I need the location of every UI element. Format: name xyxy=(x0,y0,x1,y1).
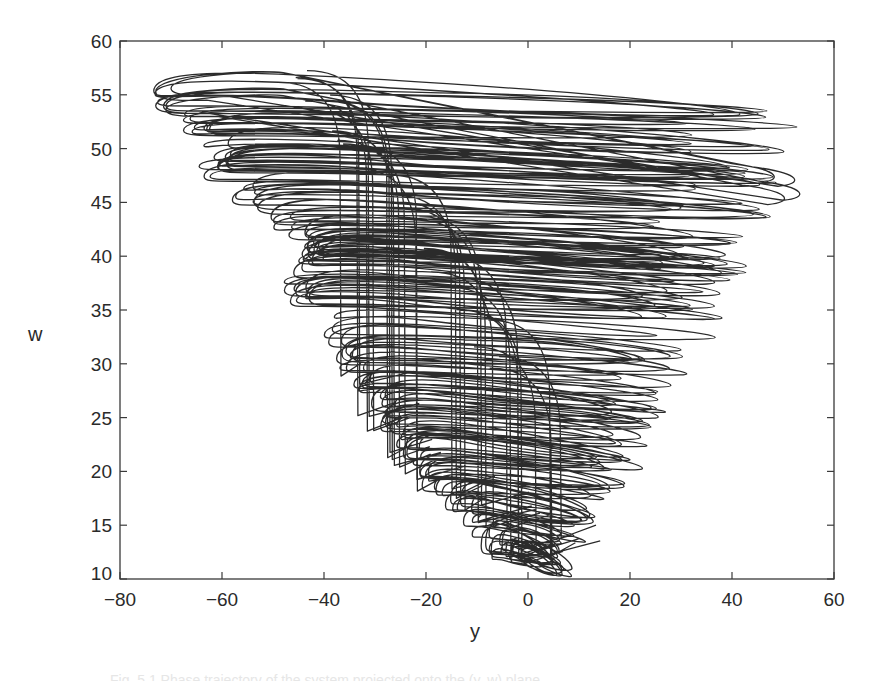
y-axis-label: w xyxy=(28,323,42,346)
y-tick-label: 25 xyxy=(72,408,112,427)
y-tick-label: 55 xyxy=(72,85,112,104)
x-tick-label: 60 xyxy=(823,590,844,609)
y-tick-label: 15 xyxy=(72,516,112,535)
x-tick-label: −40 xyxy=(308,590,340,609)
x-tick-label: 40 xyxy=(721,590,742,609)
y-tick-label: 50 xyxy=(72,139,112,158)
y-tick-label: 60 xyxy=(72,32,112,51)
y-tick-label: 45 xyxy=(72,193,112,212)
x-tick-label: 20 xyxy=(619,590,640,609)
x-tick-label: 0 xyxy=(523,590,534,609)
y-tick-label: 30 xyxy=(72,354,112,373)
trajectory-curve xyxy=(154,71,800,577)
y-tick-label: 10 xyxy=(72,564,112,583)
figure-caption: Fig. 5.1 Phase trajectory of the system … xyxy=(110,672,810,681)
y-tick-label: 35 xyxy=(72,301,112,320)
x-tick-label: −80 xyxy=(104,590,136,609)
x-tick-label: −60 xyxy=(206,590,238,609)
y-tick-label: 40 xyxy=(72,247,112,266)
x-axis-label: y xyxy=(470,620,480,643)
phase-portrait-chart xyxy=(0,0,878,681)
x-tick-label: −20 xyxy=(410,590,442,609)
trajectory-path xyxy=(154,71,800,577)
y-tick-label: 20 xyxy=(72,462,112,481)
